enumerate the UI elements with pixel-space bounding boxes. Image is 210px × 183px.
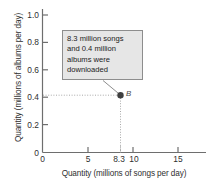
callout-line-3: albums were: [67, 55, 139, 65]
annotation-callout: 8.3 million songs and 0.4 million albums…: [62, 30, 143, 80]
callout-line-4: downloaded: [67, 65, 139, 75]
data-point-b: [117, 92, 123, 98]
point-guide-lines: [43, 95, 121, 152]
x-tick-label-5: 5: [76, 154, 100, 164]
chart-figure: 1.0 0.8 0.6 0.4 0.2 0 0 5 8.3 10 15 Quan…: [0, 0, 210, 183]
x-tick-label-0: 0: [31, 154, 55, 164]
x-tick-marks: [88, 147, 178, 153]
data-point-label-b: B: [126, 89, 131, 98]
y-tick-marks: [43, 15, 49, 125]
callout-line-1: 8.3 million songs: [67, 34, 139, 44]
callout-line-2: and 0.4 million: [67, 44, 139, 54]
callout-leader-line: [103, 81, 118, 94]
x-axis-title: Quantity (millions of songs per day): [37, 169, 210, 178]
x-tick-label-10: 10: [122, 154, 146, 164]
x-tick-label-15: 15: [166, 154, 190, 164]
y-axis-title: Quantity (millions of albums per day): [14, 3, 23, 153]
